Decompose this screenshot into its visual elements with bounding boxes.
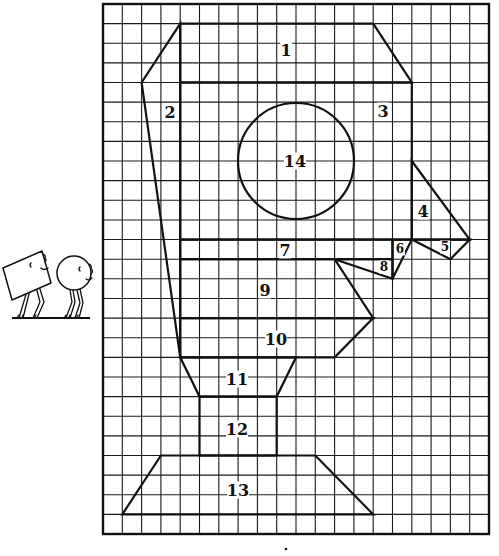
piece-label-7: 7: [279, 241, 290, 260]
piece-number-labels: 1234567891011121314: [164, 41, 450, 500]
square-body-icon: [3, 251, 51, 300]
stray-mark: [285, 548, 288, 551]
piece-label-4: 4: [417, 202, 428, 221]
piece-label-11: 11: [226, 370, 248, 389]
piece-label-6: 6: [396, 242, 404, 256]
piece-label-14: 14: [284, 152, 306, 171]
piece-label-1: 1: [280, 41, 291, 60]
piece-label-12: 12: [226, 420, 248, 439]
piece-label-13: 13: [227, 481, 249, 500]
piece-label-5: 5: [441, 240, 449, 254]
piece-label-3: 3: [377, 102, 388, 121]
grid-worksheet: 1234567891011121314: [0, 0, 499, 556]
piece-label-2: 2: [164, 103, 175, 122]
piece-label-9: 9: [259, 281, 270, 300]
circle-body-icon: [57, 256, 91, 290]
circle-character: [57, 256, 93, 318]
piece-label-10: 10: [265, 330, 287, 349]
square-character: [3, 251, 51, 318]
circle-leg-right: [75, 290, 80, 318]
piece-label-8: 8: [380, 260, 388, 274]
